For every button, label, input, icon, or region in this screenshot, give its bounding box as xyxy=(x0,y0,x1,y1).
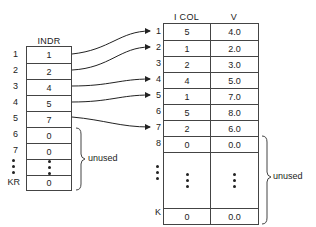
brace-left-unused xyxy=(76,128,85,190)
v-cell: 2.0 xyxy=(211,40,258,56)
v-cell: 0.0 xyxy=(211,136,258,152)
icol-cell: 2 xyxy=(164,56,210,72)
icol-cell: 0 xyxy=(164,208,210,224)
v-header: V xyxy=(210,12,258,22)
v-cell: 4.0 xyxy=(211,24,258,40)
indr-cell: 0 xyxy=(27,143,71,159)
value-index: 6 xyxy=(147,106,161,116)
indr-index: KR xyxy=(6,177,20,187)
v-cell: 8.0 xyxy=(211,104,258,120)
indr-index: 6 xyxy=(4,129,18,139)
indr-index: 4 xyxy=(4,97,18,107)
indr-index-ellipsis xyxy=(9,158,17,174)
arrow-indr4-to-row5 xyxy=(72,95,150,102)
indr-cell: 0 xyxy=(27,127,71,143)
indr-table: 1 2 4 5 7 0 0 0 xyxy=(26,46,72,191)
v-cell-ellipsis xyxy=(211,152,258,208)
value-index: 5 xyxy=(147,90,161,100)
icol-cell: 5 xyxy=(164,104,210,120)
value-index: K xyxy=(147,207,161,217)
value-index: 2 xyxy=(147,42,161,52)
arrow-indr2-to-row2 xyxy=(72,47,150,70)
indr-index: 2 xyxy=(4,65,18,75)
indr-cell: 0 xyxy=(27,175,71,190)
indr-cell: 5 xyxy=(27,95,71,111)
indr-cell-ellipsis xyxy=(27,159,71,175)
icol-cell: 2 xyxy=(164,120,210,136)
v-cell: 6.0 xyxy=(211,120,258,136)
value-index-ellipsis xyxy=(153,162,161,182)
icol-cell: 5 xyxy=(164,24,210,40)
arrow-indr5-to-row7 xyxy=(72,117,150,127)
v-cell: 0.0 xyxy=(211,208,258,224)
value-index: 1 xyxy=(147,26,161,36)
v-cell: 7.0 xyxy=(211,88,258,104)
value-table: 5 1 2 4 1 5 2 0 0 4.0 2.0 3.0 5.0 7.0 8.… xyxy=(163,23,259,225)
icol-cell-ellipsis xyxy=(164,152,210,208)
indr-index: 7 xyxy=(4,145,18,155)
indr-index: 1 xyxy=(4,49,18,59)
indr-index: 3 xyxy=(4,81,18,91)
icol-cell: 0 xyxy=(164,136,210,152)
indr-unused-label: unused xyxy=(88,153,118,163)
indr-header: INDR xyxy=(26,36,72,46)
value-unused-label: unused xyxy=(273,171,303,181)
value-index: 8 xyxy=(147,138,161,148)
indr-cell: 4 xyxy=(27,79,71,95)
arrow-indr3-to-row4 xyxy=(72,79,150,86)
brace-right-unused xyxy=(262,136,271,224)
icol-cell: 1 xyxy=(164,40,210,56)
v-cell: 5.0 xyxy=(211,72,258,88)
arrow-indr1-to-row1 xyxy=(72,31,150,54)
indr-cell: 7 xyxy=(27,111,71,127)
indr-cell: 1 xyxy=(27,47,71,63)
value-index: 7 xyxy=(147,122,161,132)
icol-cell: 1 xyxy=(164,88,210,104)
value-index: 4 xyxy=(147,74,161,84)
indr-cell: 2 xyxy=(27,63,71,79)
indr-index: 5 xyxy=(4,113,18,123)
value-index: 3 xyxy=(147,58,161,68)
icol-cell: 4 xyxy=(164,72,210,88)
icol-header: I COL xyxy=(163,12,210,22)
v-cell: 3.0 xyxy=(211,56,258,72)
